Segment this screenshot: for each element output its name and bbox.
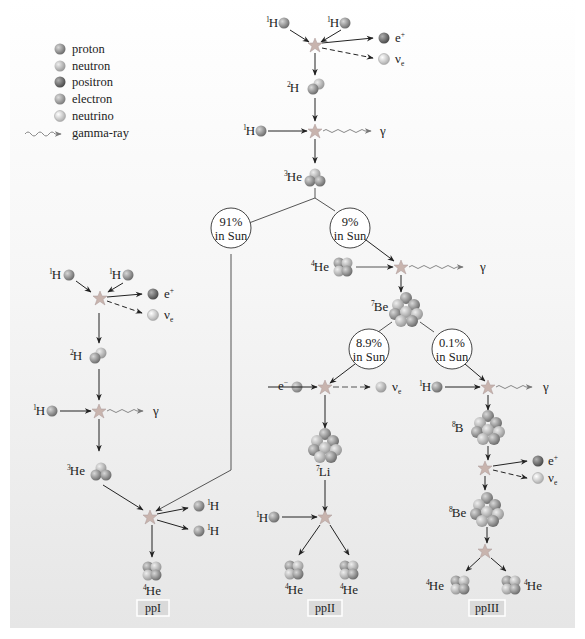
- proton-icon: [340, 18, 351, 29]
- branch-91-percent: 91% in Sun: [156, 208, 251, 511]
- he4-label: 4He: [143, 583, 161, 598]
- helium4-icon: [502, 576, 521, 595]
- positron-label: e+: [548, 453, 558, 468]
- proton-icon: [194, 526, 205, 537]
- proton-icon: [279, 18, 290, 29]
- boron8-icon: [471, 410, 505, 445]
- neutrino-label: νe: [395, 51, 405, 68]
- neutrino-icon: [533, 473, 544, 484]
- helium3-icon: [91, 463, 112, 481]
- h1-label: 1H: [207, 498, 219, 513]
- positron-icon: [379, 33, 390, 44]
- ppI-chain: 1H 1H e+ νe 2H 1H γ 3He 1H 1H: [33, 267, 219, 598]
- branch-sub: in Sun: [334, 229, 367, 243]
- reaction-star-icon: [478, 461, 492, 475]
- h1-label: 1H: [243, 123, 255, 138]
- proton-icon: [64, 270, 75, 281]
- he3-label: 3He: [67, 463, 85, 478]
- helium4-icon: [340, 561, 359, 580]
- top-chain: 1H 1H e+ νe 2H 1H γ 3He: [243, 15, 405, 223]
- reaction-star-icon: [318, 510, 332, 524]
- h1-label: 1H: [109, 267, 121, 282]
- proton-icon: [194, 501, 205, 512]
- chain-label-ppIII: ppIII: [469, 600, 505, 616]
- neutrino-label: νe: [392, 379, 402, 396]
- reaction-star-icon: [481, 380, 495, 394]
- chain-label-ppII: ppII: [308, 600, 342, 616]
- legend-electron-label: electron: [72, 92, 113, 106]
- legend-neutrino-label: neutrino: [72, 109, 114, 123]
- legend-neutron-label: neutron: [72, 59, 111, 73]
- proton-icon: [123, 270, 134, 281]
- beryllium8-icon: [470, 492, 504, 527]
- branch-0-1-percent: 0.1% in Sun 1H γ 8B e+ νe 8Be 4He 4He: [419, 329, 558, 595]
- positron-label: e+: [164, 286, 174, 301]
- proton-proton-chain-diagram: proton neutron positron electron neutrin…: [0, 0, 585, 639]
- reaction-star-icon: [478, 544, 492, 558]
- deuterium-icon: [308, 79, 325, 95]
- he4-label: 4He: [285, 582, 303, 597]
- reaction-star-icon: [308, 124, 322, 138]
- he4-label: 4He: [426, 578, 444, 593]
- neutrino-label: νe: [164, 307, 174, 324]
- legend-gamma-label: gamma-ray: [72, 126, 130, 140]
- h2-label: 2H: [287, 80, 299, 95]
- svg-text:ppIII: ppIII: [475, 601, 499, 615]
- gamma-ray-icon: [25, 132, 61, 136]
- legend-proton-label: proton: [72, 42, 105, 56]
- branch-9-percent: 9% in Sun 4He γ 7Be: [311, 208, 486, 332]
- proton-icon: [55, 44, 66, 55]
- positron-icon: [533, 456, 544, 467]
- proton-icon: [256, 126, 267, 137]
- he3-label: 3He: [284, 169, 302, 184]
- h1-label: 1H: [256, 510, 268, 525]
- svg-text:ppII: ppII: [315, 601, 335, 615]
- positron-icon: [55, 77, 66, 88]
- neutrino-icon: [55, 111, 66, 122]
- branch-pct: 0.1%: [439, 336, 465, 350]
- branch-pct: 9%: [342, 215, 359, 229]
- helium3-icon: [305, 169, 326, 187]
- branch-pct: 8.9%: [356, 336, 382, 350]
- h1-label-right: 1H: [327, 15, 339, 30]
- proton-icon: [432, 382, 443, 393]
- gamma-ray-icon: [107, 410, 143, 413]
- h1-label-left: 1H: [266, 15, 278, 30]
- reaction-star-icon: [318, 380, 332, 394]
- he4-label: 4He: [340, 582, 358, 597]
- proton-icon: [47, 406, 58, 417]
- branch-pct: 91%: [220, 215, 243, 229]
- reaction-star-icon: [92, 404, 106, 418]
- gamma-label: γ: [542, 379, 549, 394]
- be8-label: 8Be: [449, 505, 466, 520]
- reaction-star-icon: [93, 291, 107, 305]
- branch-sub: in Sun: [436, 350, 469, 364]
- be7-label: 7Be: [371, 299, 388, 314]
- neutrino-icon: [376, 382, 387, 393]
- he4-label: 4He: [524, 578, 542, 593]
- helium4-icon: [285, 561, 304, 580]
- lithium7-icon: [308, 428, 342, 463]
- branch-sub: in Sun: [215, 229, 248, 243]
- h1-label: 1H: [419, 379, 431, 394]
- b8-label: 8B: [452, 420, 464, 435]
- electron-label: e−: [278, 378, 288, 393]
- helium4-icon: [334, 258, 353, 277]
- reaction-star-icon: [143, 510, 157, 524]
- svg-text:ppI: ppI: [145, 601, 161, 615]
- gamma-label: γ: [152, 403, 159, 418]
- neutrino-icon: [148, 310, 159, 321]
- electron-icon: [55, 94, 66, 105]
- neutrino-label: νe: [548, 470, 558, 487]
- neutron-icon: [55, 61, 66, 72]
- branch-8-9-percent: 8.9% in Sun e− νe 7Li 1H 4He 4He: [256, 329, 402, 597]
- gamma-label: γ: [379, 123, 386, 138]
- branch-sub: in Sun: [353, 350, 386, 364]
- positron-label: e+: [395, 30, 405, 45]
- he4-label: 4He: [311, 259, 329, 274]
- legend-positron-label: positron: [72, 75, 114, 89]
- proton-icon: [269, 512, 280, 523]
- li7-label: 7Li: [316, 464, 331, 479]
- positron-icon: [148, 289, 159, 300]
- h1-label: 1H: [33, 403, 45, 418]
